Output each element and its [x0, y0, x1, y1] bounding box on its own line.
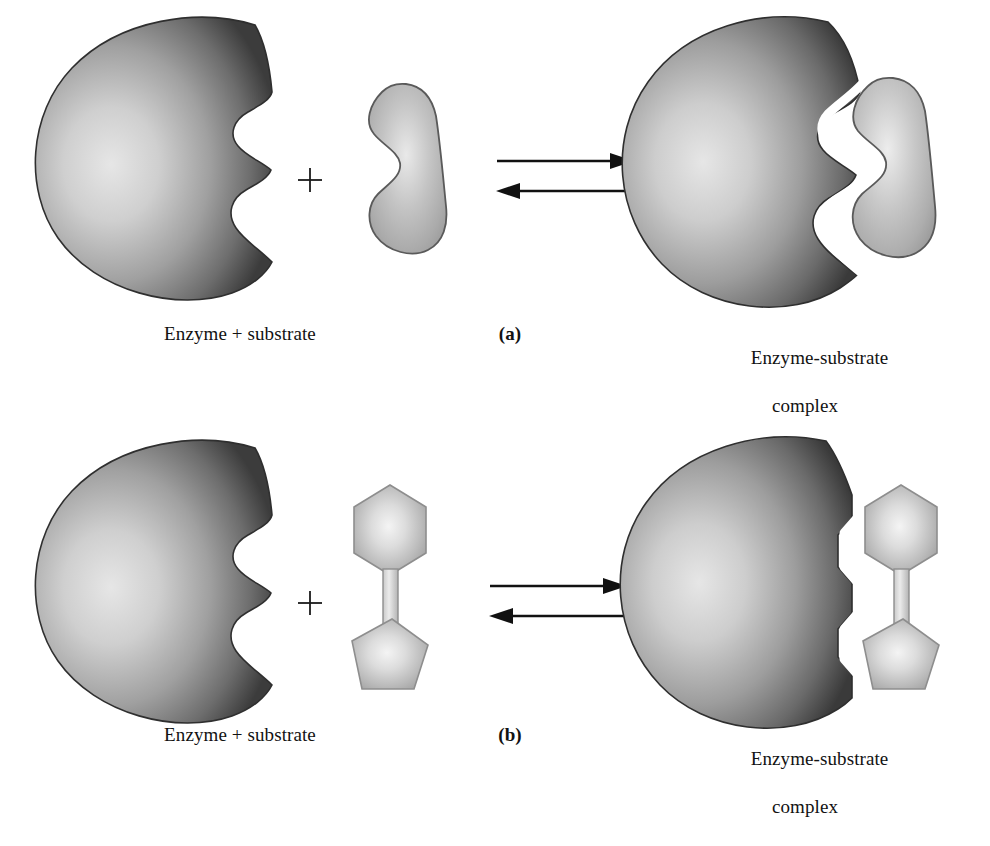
- equilibrium-arrows-a: [496, 153, 634, 199]
- enzyme-free-a: [35, 17, 272, 300]
- panel-a-right-caption-line1: Enzyme-substrate: [751, 347, 889, 368]
- panel-a-letter: (a): [450, 322, 570, 346]
- substrate-free-a: [369, 84, 447, 254]
- panel-b-right-caption-line2: complex: [640, 795, 970, 819]
- panel-b-letter: (b): [450, 723, 570, 747]
- substrate-pentagon-b: [352, 619, 428, 689]
- reverse-arrow-b: [489, 608, 627, 624]
- panel-a-left-caption: Enzyme + substrate: [20, 322, 460, 346]
- enzyme-substrate-figure: Enzyme + substrate (a) Enzyme-substrate …: [0, 0, 990, 846]
- enzyme-substrate-complex-a: [622, 17, 935, 307]
- panel-a-stage: [0, 0, 990, 320]
- panel-a-right-caption-line2: complex: [640, 394, 970, 418]
- substrate-hexagon-b: [354, 485, 426, 575]
- enzyme-free-b: [35, 440, 272, 723]
- forward-arrow-a: [497, 153, 634, 169]
- equilibrium-arrows-b: [489, 578, 627, 624]
- panel-a: Enzyme + substrate (a) Enzyme-substrate …: [0, 0, 990, 423]
- plus-icon-a: [298, 168, 322, 192]
- complex-pentagon-b: [863, 619, 939, 689]
- panel-b: Enzyme + substrate (b) Enzyme-substrate …: [0, 423, 990, 846]
- panel-b-right-caption: Enzyme-substrate complex: [640, 723, 970, 846]
- panel-b-right-caption-line1: Enzyme-substrate: [751, 748, 889, 769]
- panel-b-left-caption: Enzyme + substrate: [20, 723, 460, 747]
- reverse-arrow-a: [496, 183, 634, 199]
- plus-icon-b: [298, 591, 322, 615]
- complex-hexagon-b: [865, 485, 937, 575]
- forward-arrow-b: [490, 578, 627, 594]
- panel-b-stage: [0, 423, 990, 743]
- enzyme-substrate-complex-b: [620, 437, 939, 728]
- substrate-free-b: [352, 485, 428, 689]
